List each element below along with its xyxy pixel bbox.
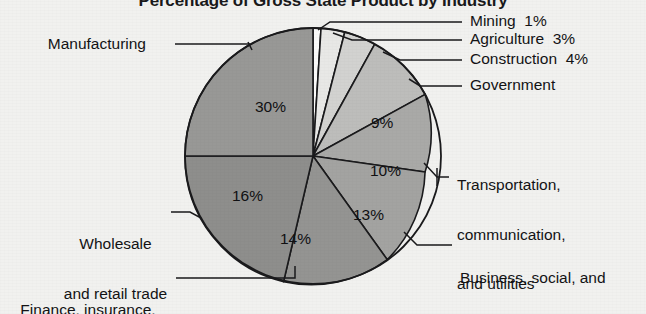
slice-percent-finance: 14% bbox=[280, 230, 311, 248]
slice-percent-business: 13% bbox=[353, 206, 384, 224]
callout-agriculture: Agriculture 3% bbox=[470, 31, 575, 48]
callout-construction: Construction 4% bbox=[470, 51, 588, 68]
callout-government: Government bbox=[470, 77, 555, 94]
slice-percent-government: 9% bbox=[371, 114, 393, 132]
slice-percent-transportation: 10% bbox=[370, 162, 401, 180]
callout-manufacturing: Manufacturing bbox=[48, 36, 146, 53]
leader-line-wholesale bbox=[171, 212, 201, 218]
callout-business-line1: Business, social, and bbox=[460, 270, 606, 287]
callout-transportation-line1: Transportation, bbox=[457, 177, 566, 194]
callout-finance: Finance, insurance, and real estate bbox=[4, 269, 172, 314]
callout-wholesale-line1: Wholesale bbox=[63, 236, 168, 253]
callout-business: Business, social, and personal services bbox=[460, 237, 606, 314]
slice-percent-wholesale: 16% bbox=[232, 187, 263, 205]
pie-slice-manufacturing[interactable] bbox=[185, 28, 313, 156]
chart-page: Percentage of Gross State Product by Ind… bbox=[0, 0, 646, 314]
slice-percent-manufacturing: 30% bbox=[255, 98, 286, 116]
leader-line-business bbox=[404, 232, 452, 245]
callout-mining: Mining 1% bbox=[470, 13, 547, 30]
callout-finance-line1: Finance, insurance, bbox=[4, 302, 172, 314]
leader-line-mining bbox=[318, 22, 462, 30]
